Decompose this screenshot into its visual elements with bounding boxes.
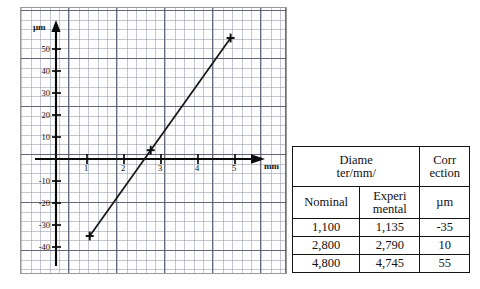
diameter-correction-table: Diame ter/mm/ Corr ection Nominal: [292, 146, 470, 273]
y-tick-label-neg20: -20: [22, 198, 50, 208]
y-tick-label-50: 50: [24, 44, 50, 54]
x-tick-label-2: 2: [121, 163, 125, 173]
table-row: 4,800 4,745 55: [293, 255, 470, 273]
header-experimental: Experi mental: [360, 187, 420, 219]
x-axis-unit-label: mm: [264, 161, 279, 171]
table-header-row-group: Diame ter/mm/ Corr ection: [293, 147, 470, 187]
header-nominal: Nominal: [293, 187, 360, 219]
header-correction-line2: ection: [422, 167, 467, 180]
y-axis-unit-label: µm: [33, 22, 45, 32]
chart-panel: µm 50 40 30 20 10 -10 -20 -30 -40 1 2 3 …: [20, 7, 287, 274]
x-tick-label-1: 1: [84, 163, 88, 173]
header-correction-unit: µm: [420, 187, 470, 219]
header-diameter-line2: ter/mm/: [295, 167, 417, 180]
header-experimental-line1: Experi: [362, 190, 417, 203]
header-diameter-group: Diame ter/mm/: [293, 147, 420, 187]
y-tick-label-neg40: -40: [22, 242, 50, 252]
cell-correction: 55: [420, 255, 470, 273]
plot-area: [21, 8, 286, 273]
cell-correction: 10: [420, 237, 470, 255]
x-tick-label-3: 3: [158, 163, 162, 173]
y-tick-label-30: 30: [24, 88, 50, 98]
table-row: 1,100 1,135 -35: [293, 219, 470, 237]
page-root: µm 50 40 30 20 10 -10 -20 -30 -40 1 2 3 …: [0, 0, 480, 289]
cell-experimental: 4,745: [360, 255, 420, 273]
cell-nominal: 1,100: [293, 219, 360, 237]
header-experimental-line2: mental: [362, 203, 417, 216]
cell-experimental: 1,135: [360, 219, 420, 237]
data-line: [90, 38, 231, 236]
header-diameter-line1: Diame: [295, 154, 417, 167]
header-correction-line1: Corr: [422, 154, 467, 167]
table-row: 2,800 2,790 10: [293, 237, 470, 255]
cell-experimental: 2,790: [360, 237, 420, 255]
y-axis: [51, 20, 60, 266]
correction-table-panel: Diame ter/mm/ Corr ection Nominal: [292, 146, 470, 272]
table-header-row-cols: Nominal Experi mental µm: [293, 187, 470, 219]
x-tick-label-5: 5: [232, 163, 236, 173]
y-tick-label-40: 40: [24, 66, 50, 76]
y-tick-label-neg10: -10: [22, 176, 50, 186]
cell-correction: -35: [420, 219, 470, 237]
header-correction-group: Corr ection: [420, 147, 470, 187]
y-tick-label-10: 10: [24, 132, 50, 142]
cell-nominal: 2,800: [293, 237, 360, 255]
cell-nominal: 4,800: [293, 255, 360, 273]
x-tick-label-4: 4: [195, 163, 199, 173]
y-tick-label-20: 20: [24, 110, 50, 120]
y-tick-label-neg30: -30: [22, 220, 50, 230]
x-axis: [35, 154, 265, 164]
